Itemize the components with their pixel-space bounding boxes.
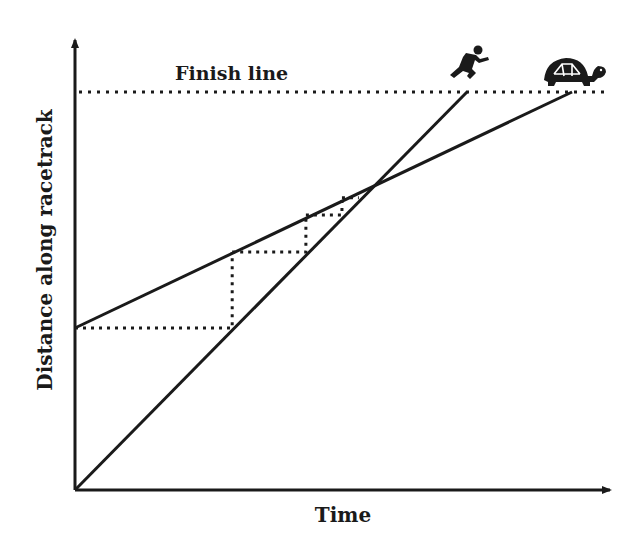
- runner-line: [75, 92, 467, 490]
- finish-line-label: Finish line: [175, 62, 288, 84]
- runner-icon: [450, 46, 489, 80]
- x-axis-label: Time: [315, 503, 371, 527]
- y-axis-label: Distance along racetrack: [33, 108, 57, 391]
- tortoise-icon: [544, 58, 606, 86]
- race-diagram: Finish line Time Distance along racetrac…: [0, 0, 641, 543]
- tortoise-line: [75, 92, 572, 328]
- zeno-step-2: [232, 215, 306, 252]
- zeno-step-3: [306, 198, 342, 215]
